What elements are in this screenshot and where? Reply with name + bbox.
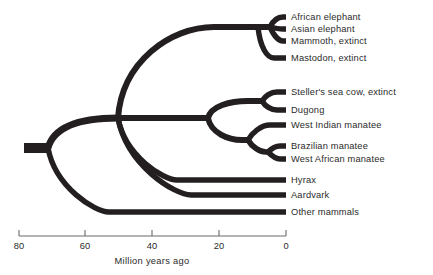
- axis-tick-label-60: 60: [80, 241, 90, 251]
- branch-west-indian-manatee: [248, 125, 286, 140]
- branch-stellers-sea-cow: [262, 92, 286, 101]
- axis-tick-label-0: 0: [283, 241, 288, 251]
- tip-label-african-elephant: African elephant: [291, 12, 361, 22]
- tip-label-mammoth: Mammoth, extinct: [291, 36, 367, 46]
- branch-west-african-manatee: [268, 152, 286, 159]
- time-axis-group: [19, 230, 286, 236]
- axis-tick-label-20: 20: [214, 241, 224, 251]
- phylogenetic-tree-figure: African elephantAsian elephantMammoth, e…: [0, 0, 433, 275]
- branch-trichechidae-stem: [208, 118, 248, 140]
- tip-label-mastodon: Mastodon, extinct: [291, 53, 366, 63]
- tip-label-dugong: Dugong: [291, 105, 324, 115]
- axis-title: Million years ago: [115, 256, 190, 266]
- branch-dugongidae-stem: [208, 101, 262, 118]
- branch-group: [24, 17, 286, 212]
- tip-label-aardvark: Aardvark: [291, 190, 329, 200]
- tip-label-other-mammals: Other mammals: [291, 207, 359, 217]
- branch-manatee-pair-stem: [248, 140, 268, 152]
- axis-tick-label-40: 40: [147, 241, 157, 251]
- tip-label-hyrax: Hyrax: [291, 175, 316, 185]
- branch-dugong: [262, 101, 286, 110]
- tip-label-asian-elephant: Asian elephant: [291, 24, 355, 34]
- tip-label-west-indian-manatee: West Indian manatee: [291, 120, 382, 130]
- tip-label-west-african-manatee: West African manatee: [291, 154, 385, 164]
- axis-tick-label-80: 80: [14, 241, 24, 251]
- branch-paenungulata-stem: [48, 118, 118, 148]
- tree-branches-svg: [0, 0, 433, 275]
- tip-label-stellers-sea-cow: Steller's sea cow, extinct: [291, 87, 396, 97]
- tip-label-brazilian-manatee: Brazilian manatee: [291, 141, 368, 151]
